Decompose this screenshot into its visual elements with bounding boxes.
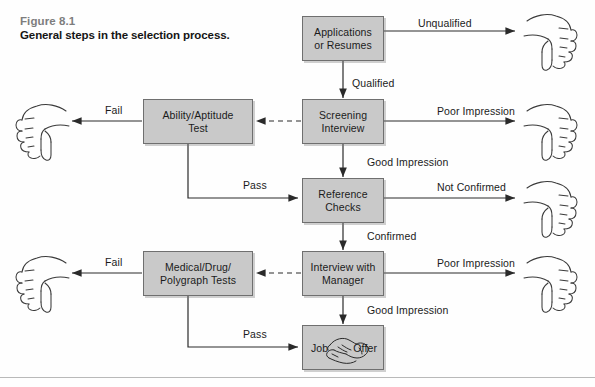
job-offer-word-right: Offer (353, 342, 377, 355)
edge-label-not-confirmed: Not Confirmed (437, 181, 506, 193)
node-medical-drug-polygraph-tests[interactable]: Medical/Drug/ Polygraph Tests (143, 251, 253, 296)
edge-label-good-impression-bottom: Good Impression (367, 304, 448, 316)
figure-title: General steps in the selection process. (20, 28, 280, 42)
node-screening-interview[interactable]: Screening Interview (302, 99, 384, 144)
node-label: Ability/Aptitude Test (162, 109, 233, 135)
thumbs-down-icon (521, 8, 583, 74)
edge-label-pass-bottom: Pass (243, 328, 267, 340)
node-job-offer[interactable]: Job Offer (302, 325, 384, 370)
figure-canvas: Figure 8.1 General steps in the selectio… (0, 0, 595, 387)
figure-number: Figure 8.1 (20, 14, 280, 28)
edge-label-fail-top: Fail (105, 104, 122, 116)
node-label: Medical/Drug/ Polygraph Tests (160, 261, 236, 287)
reject-icon-poor-impression-top (521, 98, 583, 168)
edge-label-qualified: Qualified (352, 77, 394, 89)
thumbs-down-icon (10, 250, 72, 316)
job-offer-word-left: Job (311, 342, 328, 355)
bottom-rule (0, 377, 595, 378)
node-ability-aptitude-test[interactable]: Ability/Aptitude Test (143, 99, 253, 144)
figure-caption: Figure 8.1 General steps in the selectio… (20, 14, 280, 42)
edge-label-poor-impression-top: Poor Impression (437, 105, 515, 117)
connector-layer (0, 0, 595, 387)
edge-label-unqualified: Unqualified (418, 17, 472, 29)
thumbs-down-icon (10, 98, 72, 164)
edge-label-poor-impression-bottom: Poor Impression (437, 257, 515, 269)
reject-icon-not-confirmed (521, 175, 583, 245)
reject-icon-fail-bottom (10, 250, 72, 320)
edge-label-pass-top: Pass (243, 179, 267, 191)
node-label: Applications or Resumes (314, 26, 372, 52)
thumbs-down-icon (521, 98, 583, 164)
node-label: Interview with Manager (310, 261, 375, 287)
node-interview-with-manager[interactable]: Interview with Manager (302, 251, 384, 296)
thumbs-down-icon (521, 250, 583, 316)
reject-icon-unqualified (521, 8, 583, 78)
reject-icon-fail-top (10, 98, 72, 168)
node-label: Screening Interview (319, 109, 367, 135)
edge-label-good-impression-top: Good Impression (367, 156, 448, 168)
thumbs-down-icon (521, 175, 583, 241)
node-reference-checks[interactable]: Reference Checks (302, 178, 384, 223)
edge-label-fail-bottom: Fail (105, 256, 122, 268)
node-label: Reference Checks (318, 188, 367, 214)
edge-label-confirmed: Confirmed (367, 230, 416, 242)
node-applications-or-resumes[interactable]: Applications or Resumes (302, 16, 384, 61)
reject-icon-poor-impression-bottom (521, 250, 583, 320)
